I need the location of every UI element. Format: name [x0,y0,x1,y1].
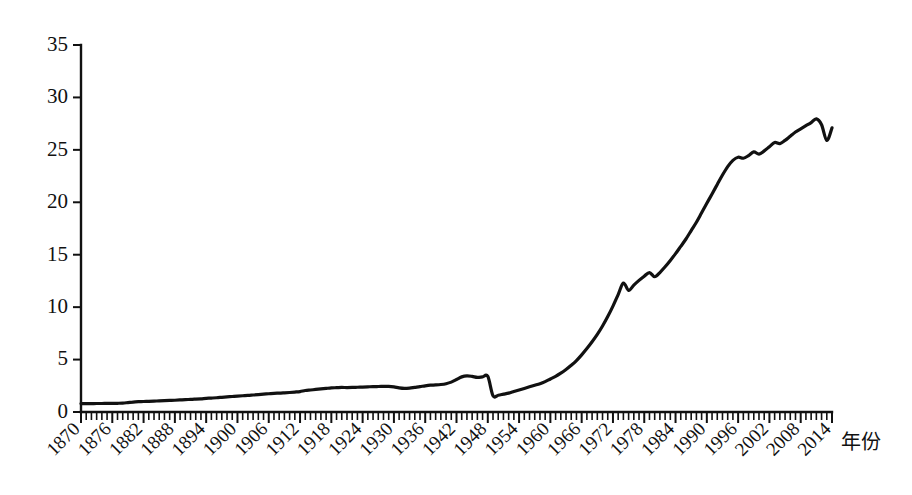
y-axis: 05101520253035 [47,32,81,423]
x-tick-label: 2008 [762,418,804,460]
x-axis-title: 年份 [841,430,881,454]
x-tick-label: 1900 [199,418,241,460]
y-tick-label: 10 [47,294,68,318]
x-tick-label: 1906 [230,418,272,460]
x-tick-label: 1876 [73,418,115,460]
y-tick-label: 35 [47,32,68,56]
data-line-series-1 [81,119,832,404]
x-tick-label: 1912 [261,418,303,460]
y-tick-label: 25 [47,137,68,161]
x-tick-label: 1966 [543,418,585,460]
x-tick-label: 1948 [449,418,491,460]
x-tick-label: 1942 [418,418,460,460]
x-tick-label: 1924 [324,418,366,460]
x-tick-label: 1930 [355,418,397,460]
x-tick-label: 1918 [292,418,334,460]
x-tick-label: 1972 [574,418,616,460]
line-chart: 05101520253035 1870187618821888189419001… [0,0,912,495]
x-tick-label: 1960 [511,418,553,460]
x-tick-label: 2002 [731,418,773,460]
y-tick-label: 15 [47,242,68,266]
x-tick-label: 1882 [105,418,147,460]
x-tick-label: 1894 [167,418,209,460]
x-tick-label: 1870 [42,418,84,460]
y-tick-label: 30 [47,84,68,108]
chart-container: 05101520253035 1870187618821888189419001… [0,0,912,495]
y-tick-label: 5 [58,346,69,370]
x-tick-label: 1954 [480,418,522,460]
x-tick-label: 1936 [386,418,428,460]
x-tick-label: 1978 [605,418,647,460]
y-tick-label: 20 [47,189,68,213]
x-tick-label: 1990 [668,418,710,460]
data-series [81,119,832,404]
x-tick-labels: 1870187618821888189419001906191219181924… [42,418,835,460]
x-tick-label: 1888 [136,418,178,460]
x-tick-label: 2014 [793,418,835,460]
x-tick-label: 1996 [699,418,741,460]
x-tick-label: 1984 [637,418,679,460]
